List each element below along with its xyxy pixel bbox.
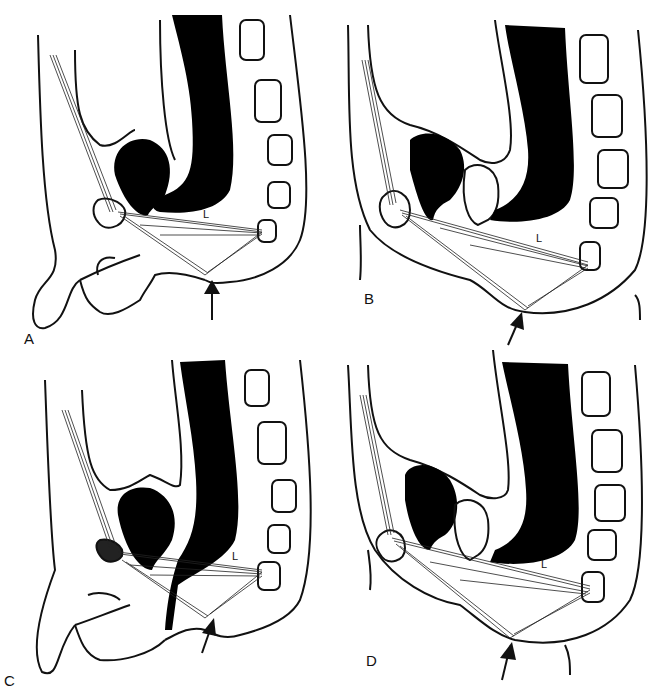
perineal-body-arrow: [202, 618, 216, 653]
levator-label-b: L: [536, 232, 542, 244]
panel-b: L B: [330, 0, 661, 350]
perineal-body-arrow: [204, 280, 220, 320]
rectum: [490, 362, 579, 564]
sagittal-pelvis-drawing-c: [0, 350, 330, 696]
levator-label-c: L: [232, 550, 238, 562]
panel-label-c: C: [4, 672, 15, 689]
panel-a: L A: [0, 0, 330, 350]
sagittal-pelvis-drawing-b: [330, 0, 661, 350]
panel-label-a: A: [24, 330, 34, 347]
sagittal-pelvis-drawing-a: [0, 0, 330, 350]
uterus-vagina: [454, 500, 488, 560]
perineal-body-arrow: [500, 642, 516, 680]
levator-label-a: L: [203, 208, 209, 220]
levator-label-d: L: [541, 558, 547, 570]
panel-label-b: B: [364, 290, 374, 307]
bladder: [410, 133, 464, 220]
bladder: [405, 465, 457, 550]
sagittal-pelvis-drawing-d: [330, 350, 661, 696]
rectum: [490, 25, 574, 222]
panel-d: L D: [330, 350, 661, 696]
panel-c: L C: [0, 350, 330, 696]
panel-label-d: D: [366, 652, 377, 669]
perineal-body-arrow: [508, 312, 524, 345]
